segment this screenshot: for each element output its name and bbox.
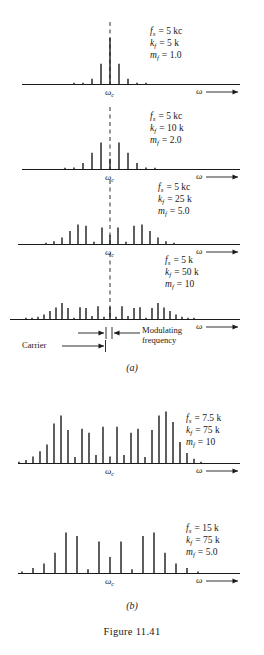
omega-c-subscript: c — [111, 91, 114, 98]
param-fs-value-a3: 5 kc — [174, 182, 190, 192]
symbol-m: m — [158, 206, 165, 216]
carrier-modulating-annotation: Carrier Modulating frequency — [0, 322, 264, 358]
param-fs-a4: fs=5 k — [165, 255, 199, 267]
param-fs-a3: fs=5 kc — [158, 182, 192, 194]
spectrum-panel-a1: fs=5 kc kf=5 k mf=1.0 ωc ω — [0, 14, 264, 102]
equals-sign: = — [195, 547, 206, 557]
carrier-label: Carrier — [22, 341, 46, 351]
param-kf-a4: kf=50 k — [165, 267, 199, 279]
omega-c-label-b2: ωc — [105, 576, 114, 586]
param-mf-a1: mf=1.0 — [150, 50, 182, 62]
equals-sign: = — [192, 425, 203, 435]
param-fs-value-b2: 15 k — [202, 523, 219, 533]
symbol-m-sub: f — [172, 283, 174, 291]
equals-sign: = — [192, 535, 203, 545]
symbol-k-sub: f — [169, 271, 171, 279]
spectrum-svg-b1 — [0, 385, 264, 481]
param-kf-a2: kf=10 k — [150, 123, 184, 135]
equals-sign: = — [164, 194, 175, 204]
spectrum-plot-a1 — [0, 14, 264, 102]
param-fs-value-a2: 5 kc — [166, 111, 182, 121]
omega-c-subscript: c — [111, 580, 114, 587]
sub-label-a: (a) — [0, 362, 264, 373]
symbol-k-sub: f — [162, 198, 164, 206]
omega-glyph: ω — [196, 465, 202, 475]
symbol-m: m — [186, 437, 193, 447]
omega-c-subscript: c — [111, 470, 114, 477]
param-fs-b1: fs=7.5 k — [186, 413, 221, 425]
equals-sign: = — [170, 255, 181, 265]
param-mf-a3: mf=5.0 — [158, 206, 192, 218]
symbol-m-sub: f — [165, 210, 167, 218]
params-b2: fs=15 k kf=75 k mf=5.0 — [186, 523, 220, 560]
equals-sign: = — [155, 111, 166, 121]
equals-sign: = — [159, 135, 170, 145]
symbol-f-sub: s — [189, 527, 192, 535]
symbol-m: m — [186, 547, 193, 557]
param-mf-value-a1: 1.0 — [170, 50, 182, 60]
equals-sign: = — [155, 26, 166, 36]
symbol-m-sub: f — [193, 441, 195, 449]
symbol-m: m — [150, 135, 157, 145]
spectrum-svg-b2 — [0, 487, 264, 591]
equals-sign: = — [167, 206, 178, 216]
param-kf-value-a4: 50 k — [182, 267, 199, 277]
omega-glyph: ω — [196, 86, 202, 96]
symbol-f-sub: s — [153, 115, 156, 123]
equals-sign: = — [174, 279, 185, 289]
equals-sign: = — [191, 523, 202, 533]
param-kf-b2: kf=75 k — [186, 535, 220, 547]
spectrum-plot-b1 — [0, 385, 264, 481]
omega-glyph: ω — [196, 575, 202, 585]
param-fs-value-b1: 7.5 k — [202, 413, 221, 423]
param-kf-value-b2: 75 k — [203, 535, 220, 545]
modulating-text-line2: frequency — [142, 336, 182, 346]
param-fs-a1: fs=5 kc — [150, 26, 182, 38]
symbol-m: m — [165, 279, 172, 289]
spectrum-panel-b2: fs=15 k kf=75 k mf=5.0 ωc ω — [0, 487, 264, 591]
param-mf-a2: mf=2.0 — [150, 135, 184, 147]
equals-sign: = — [163, 182, 174, 192]
param-mf-value-b2: 5.0 — [206, 547, 218, 557]
symbol-k-sub: f — [154, 42, 156, 50]
equals-sign: = — [156, 123, 167, 133]
param-mf-b2: mf=5.0 — [186, 547, 220, 559]
param-mf-value-a4: 10 — [185, 279, 195, 289]
symbol-k-sub: f — [190, 539, 192, 547]
figure-11-41: fs=5 kc kf=5 k mf=1.0 ωc ω fs=5 kc kf=10… — [0, 0, 264, 655]
spectrum-svg-a1 — [0, 14, 264, 102]
equals-sign: = — [171, 267, 182, 277]
symbol-m-sub: f — [193, 551, 195, 559]
omega-c-label-a1: ωc — [105, 87, 114, 97]
param-fs-a2: fs=5 kc — [150, 111, 184, 123]
equals-sign: = — [159, 50, 170, 60]
param-kf-a1: kf=5 k — [150, 38, 182, 50]
param-fs-b2: fs=15 k — [186, 523, 220, 535]
param-fs-value-a4: 5 k — [181, 255, 193, 265]
omega-axis-label-b1: ω — [196, 465, 202, 475]
params-a3: fs=5 kc kf=25 k mf=5.0 — [158, 182, 192, 219]
equals-sign: = — [191, 413, 202, 423]
sub-label-a-text: (a) — [126, 362, 138, 373]
figure-caption-text: Figure 11.41 — [104, 626, 161, 637]
param-kf-value-b1: 75 k — [203, 425, 220, 435]
omega-axis-label-a1: ω — [196, 86, 202, 96]
param-mf-value-b1: 10 — [206, 437, 216, 447]
figure-caption: Figure 11.41 — [0, 626, 264, 637]
param-kf-value-a3: 25 k — [175, 194, 192, 204]
params-b1: fs=7.5 k kf=75 k mf=10 — [186, 413, 221, 450]
symbol-f-sub: s — [189, 417, 192, 425]
param-kf-value-a2: 10 k — [167, 123, 184, 133]
equals-sign: = — [156, 38, 167, 48]
symbol-f-sub: s — [168, 259, 171, 267]
symbol-f-sub: s — [161, 186, 164, 194]
spectrum-panel-b1: fs=7.5 k kf=75 k mf=10 ωc ω — [0, 385, 264, 481]
symbol-m-sub: f — [157, 139, 159, 147]
param-mf-b1: mf=10 — [186, 437, 221, 449]
param-kf-b1: kf=75 k — [186, 425, 221, 437]
omega-c-label-b1: ωc — [105, 466, 114, 476]
symbol-m: m — [150, 50, 157, 60]
param-mf-a4: mf=10 — [165, 279, 199, 291]
modulating-frequency-label: Modulating frequency — [142, 326, 182, 346]
spectrum-plot-b2 — [0, 487, 264, 591]
